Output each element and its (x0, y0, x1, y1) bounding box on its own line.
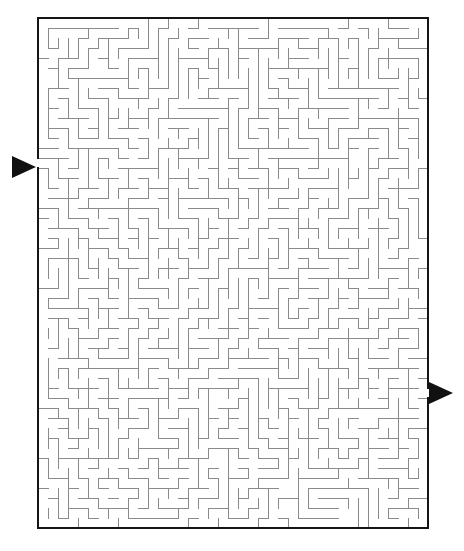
maze-canvas (0, 0, 464, 551)
maze-puzzle-page: Rectangular perfect maze Entrance Exit (0, 0, 464, 551)
maze-graphic (0, 0, 464, 551)
